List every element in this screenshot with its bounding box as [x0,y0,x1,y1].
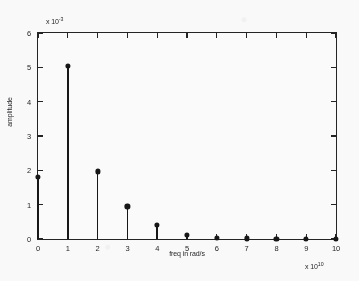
stem-marker [95,169,100,174]
x-axis-tick-label: 3 [125,244,129,253]
y-axis-tick [38,135,43,136]
x-axis-exponent-label: x 1010 [305,261,323,270]
y-exponent-base: x 10 [46,18,59,25]
y-axis-tick [38,101,43,102]
y-axis-tick-right [331,204,336,205]
x-exponent-power: 10 [318,261,324,267]
x-axis-tick-label: 1 [66,244,70,253]
y-axis-tick [38,32,43,33]
stem-marker [35,174,40,179]
stem-marker [155,223,160,228]
x-axis-tick-label: 10 [332,244,340,253]
y-axis-tick-label: 6 [27,29,31,38]
y-axis-tick-right [331,67,336,68]
stem-marker [304,236,309,241]
x-axis-tick-top [186,33,187,38]
x-axis-tick-top [157,33,158,38]
x-exponent-base: x 10 [305,263,318,270]
x-axis-tick-top [216,33,217,38]
plot-data-area: 0123456789100123456 [38,33,336,239]
x-axis-tick-label: 6 [215,244,219,253]
stem-line [97,171,99,239]
stem-marker [184,232,189,237]
x-axis-tick-top [306,33,307,38]
y-axis-tick [38,67,43,68]
y-axis-tick-right [331,135,336,136]
x-axis-tick-label: 5 [185,244,189,253]
stem-marker [65,63,70,68]
x-axis-tick-label: 2 [96,244,100,253]
x-axis-tick-top [276,33,277,38]
y-axis-tick-label: 2 [27,166,31,175]
y-exponent-power: -3 [59,16,63,22]
x-axis-tick-top [246,33,247,38]
y-axis-tick-label: 1 [27,200,31,209]
stem-marker [333,236,338,241]
y-axis-tick [38,170,43,171]
y-axis-exponent-label: x 10-3 [46,16,63,25]
y-axis-tick-label: 4 [27,97,31,106]
x-axis-tick-top [67,33,68,38]
x-axis-tick-top [37,33,38,38]
x-axis-tick-label: 7 [245,244,249,253]
stem-marker [274,236,279,241]
y-axis-tick-label: 5 [27,63,31,72]
y-axis-tick-label: 3 [27,132,31,141]
x-axis-tick-label: 8 [274,244,278,253]
figure-canvas: x 10-3 x 1010 amplitude freq in rad/s 01… [0,0,359,281]
stem-line [127,206,129,239]
x-axis-tick-top [127,33,128,38]
x-axis-tick-top [335,33,336,38]
y-axis-tick-right [331,32,336,33]
y-axis-tick [38,238,43,239]
y-axis-tick-right [331,170,336,171]
x-axis-tick-label: 9 [304,244,308,253]
x-axis-tick-label: 0 [36,244,40,253]
y-axis-title: amplitude [6,97,13,126]
x-axis-tick-top [97,33,98,38]
plot-axes-box: 0123456789100123456 [37,32,337,240]
stem-marker [244,236,249,241]
y-axis-tick-label: 0 [27,235,31,244]
stem-marker [125,204,130,209]
x-axis-tick-label: 4 [155,244,159,253]
y-axis-tick-right [331,101,336,102]
stem-line [67,66,69,239]
stem-marker [214,235,219,240]
stem-line [37,177,39,239]
y-axis-tick [38,204,43,205]
